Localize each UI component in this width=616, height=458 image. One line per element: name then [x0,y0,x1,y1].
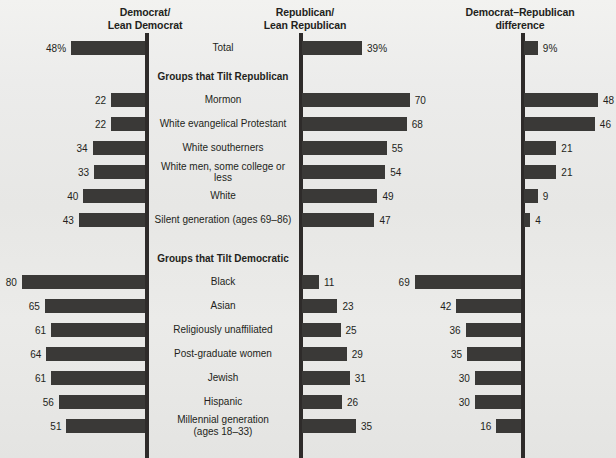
value-democrat: 43 [35,213,74,227]
bar-republican [302,275,319,289]
bar-republican [302,347,347,361]
value-democrat: 64 [2,347,41,361]
value-difference: 9% [543,41,583,55]
value-difference: 36 [422,323,461,337]
chart-row: Post-graduate women642935 [0,342,616,366]
value-democrat: 22 [67,117,106,131]
column-header-republican: Republican/ Lean Republican [215,6,395,31]
bar-difference [524,165,556,179]
column-header-difference-line1: Democrat–Republican [430,6,610,19]
bar-republican [302,213,374,227]
row-label: Black [152,270,294,294]
column-header-difference-line2: difference [430,19,610,32]
value-democrat: 34 [49,141,88,155]
chart-row: White evangelical Protestant226846 [0,112,616,136]
row-label: Jewish [152,366,294,390]
value-democrat: 80 [0,275,17,289]
bar-democrat [51,323,145,337]
bar-republican [302,165,385,179]
column-header-democrat-line1: Democrat/ [55,6,235,19]
bar-republican [302,189,377,203]
chart-row: Jewish613130 [0,366,616,390]
chart-row: Hispanic562630 [0,390,616,414]
value-republican: 55 [392,141,432,155]
bar-democrat [83,189,145,203]
row-label: White men, some college or less [152,160,294,184]
chart-row: White southerners345521 [0,136,616,160]
chart-row: Asian652342 [0,294,616,318]
row-label: Total [152,36,294,60]
bar-democrat [66,419,145,433]
value-difference: 21 [561,141,601,155]
row-label: Millennial generation(ages 18–33) [152,414,294,438]
bar-democrat [71,41,145,55]
bar-difference [415,275,521,289]
chart-row: White40499 [0,184,616,208]
column-header-republican-line1: Republican/ [215,6,395,19]
bar-difference [466,323,521,337]
value-difference: 30 [431,371,470,385]
value-difference: 35 [423,347,462,361]
bar-republican [302,93,410,107]
bar-democrat [45,299,145,313]
value-republican: 49 [382,189,422,203]
bar-democrat [46,347,145,361]
chart-row: White men, some college or less335421 [0,160,616,184]
row-label: Post-graduate women [152,342,294,366]
bar-republican [302,419,356,433]
value-republican: 68 [412,117,452,131]
bar-democrat [51,371,145,385]
row-label: Religiously unaffiliated [152,318,294,342]
bar-democrat [111,93,145,107]
value-difference: 46 [600,117,616,131]
chart-row: Mormon227048 [0,88,616,112]
bar-difference [524,213,530,227]
value-democrat: 61 [7,371,46,385]
value-republican: 31 [355,371,395,385]
bar-difference [524,141,556,155]
value-democrat: 33 [50,165,89,179]
value-difference: 69 [371,275,410,289]
bar-republican [302,371,350,385]
value-republican: 54 [390,165,430,179]
value-difference: 21 [561,165,601,179]
chart-row: Millennial generation(ages 18–33)513516 [0,414,616,438]
value-difference: 48 [603,93,616,107]
value-republican: 26 [347,395,387,409]
value-republican: 29 [352,347,392,361]
bar-republican [302,299,337,313]
value-democrat: 51 [22,419,61,433]
column-header-democrat: Democrat/ Lean Democrat [55,6,235,31]
chart-row: Black801169 [0,270,616,294]
bar-difference [475,371,521,385]
value-democrat: 65 [1,299,40,313]
bar-difference [456,299,521,313]
bar-republican [302,117,407,131]
bar-republican [302,41,362,55]
bar-democrat [93,141,145,155]
bar-democrat [111,117,145,131]
bar-difference [524,93,598,107]
bar-difference [467,347,521,361]
value-democrat: 48% [27,41,66,55]
value-democrat: 61 [7,323,46,337]
grouped-bar-chart: Democrat/ Lean Democrat Republican/ Lean… [0,0,616,458]
row-label: Hispanic [152,390,294,414]
row-label: Silent generation (ages 69–86) [152,208,294,232]
value-republican: 11 [324,275,364,289]
section-heading-republican-tilt: Groups that Tilt Republican [152,64,294,88]
bar-difference [524,41,538,55]
bar-democrat [79,213,145,227]
column-header-difference: Democrat–Republican difference [430,6,610,31]
value-republican: 39% [367,41,407,55]
bar-difference [496,419,521,433]
row-label: White evangelical Protestant [152,112,294,136]
chart-row: Total48%39%9% [0,36,616,60]
value-difference: 42 [412,299,451,313]
column-header-democrat-line2: Lean Democrat [55,19,235,32]
value-republican: 23 [342,299,382,313]
bar-difference [475,395,521,409]
value-republican: 47 [379,213,419,227]
column-header-republican-line2: Lean Republican [215,19,395,32]
bar-difference [524,189,538,203]
